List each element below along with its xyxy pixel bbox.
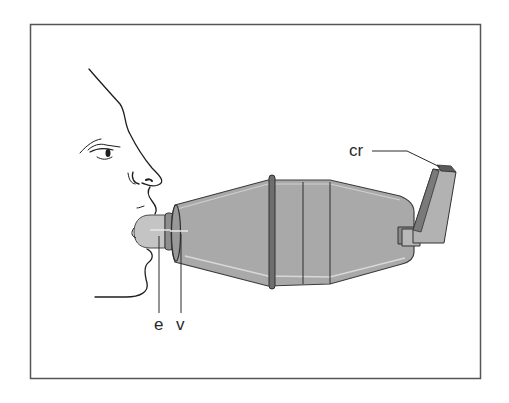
leader-cr <box>372 151 440 167</box>
label-v: v <box>176 316 185 333</box>
label-cr: cr <box>349 142 363 159</box>
spacer-chamber <box>170 175 414 289</box>
face-profile <box>80 69 162 297</box>
label-e: e <box>154 316 163 333</box>
spacer-inhaler-diagram <box>0 0 509 403</box>
chamber-ring <box>269 175 275 289</box>
valve-housing <box>172 205 181 261</box>
